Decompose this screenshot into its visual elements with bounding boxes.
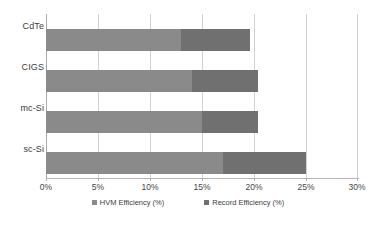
gridline-25 xyxy=(306,14,307,178)
bar-segment-hvm[interactable] xyxy=(46,111,202,133)
bar-segment-hvm[interactable] xyxy=(46,70,192,92)
bar-segment-record[interactable] xyxy=(202,111,258,133)
xtick-label-20: 20% xyxy=(237,182,271,192)
xtick-20 xyxy=(254,178,255,181)
legend-item-record-efficiency[interactable]: Record Efficiency (%) xyxy=(204,199,284,207)
bar-segment-record[interactable] xyxy=(181,29,250,51)
ytick-label-sc-si: sc-Si xyxy=(0,144,44,154)
xtick-label-0: 0% xyxy=(29,182,63,192)
bar-sc-si[interactable] xyxy=(46,152,306,174)
bar-segment-record[interactable] xyxy=(223,152,306,174)
legend-label: HVM Efficiency (%) xyxy=(100,199,164,207)
bar-segment-hvm[interactable] xyxy=(46,152,223,174)
xtick-15 xyxy=(202,178,203,181)
bar-segment-record[interactable] xyxy=(192,70,259,92)
legend-swatch-icon xyxy=(204,200,209,205)
legend-swatch-icon xyxy=(92,200,97,205)
bar-chart: CdTe CIGS mc-Si sc-Si 0% 5% 10% 15% 20% … xyxy=(0,0,376,229)
gridline-30 xyxy=(357,14,358,178)
xtick-0 xyxy=(46,178,47,181)
ytick-label-cdte: CdTe xyxy=(0,21,44,31)
bar-cdte[interactable] xyxy=(46,29,250,51)
plot-area xyxy=(46,14,358,178)
legend-label: Record Efficiency (%) xyxy=(212,199,284,207)
xtick-label-15: 15% xyxy=(185,182,219,192)
ytick-label-mc-si: mc-Si xyxy=(0,103,44,113)
legend-item-hvm-efficiency[interactable]: HVM Efficiency (%) xyxy=(92,199,164,207)
chart-legend: HVM Efficiency (%) Record Efficiency (%) xyxy=(0,199,376,207)
ytick-label-cigs: CIGS xyxy=(0,62,44,72)
xtick-30 xyxy=(357,178,358,181)
xtick-label-10: 10% xyxy=(133,182,167,192)
xtick-label-30: 30% xyxy=(340,182,374,192)
bar-mc-si[interactable] xyxy=(46,111,258,133)
xtick-25 xyxy=(306,178,307,181)
xtick-10 xyxy=(150,178,151,181)
xtick-label-5: 5% xyxy=(81,182,115,192)
bar-cigs[interactable] xyxy=(46,70,258,92)
bar-segment-hvm[interactable] xyxy=(46,29,181,51)
xtick-label-25: 25% xyxy=(289,182,323,192)
xtick-5 xyxy=(98,178,99,181)
